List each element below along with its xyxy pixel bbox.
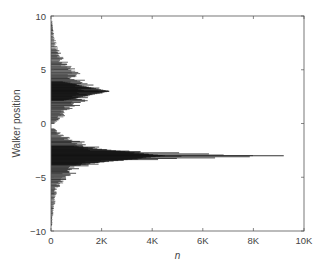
y-tick-label: 5 [41, 64, 46, 75]
x-axis-label: n [175, 250, 181, 261]
x-tick-label: 10K [296, 235, 314, 246]
y-tick-label: −5 [35, 172, 46, 183]
plot-frame [51, 16, 304, 231]
x-tick-label: 0 [48, 235, 53, 246]
x-tick-label: 8K [248, 235, 260, 246]
y-axis-label: Walker position [11, 90, 22, 158]
y-axis-ticks: −10−50510 [30, 11, 304, 237]
x-axis-ticks: 02K4K6K8K10K [48, 16, 313, 246]
walker-position-chart: 02K4K6K8K10K −10−50510 n Walker position [0, 0, 325, 271]
x-tick-label: 2K [96, 235, 108, 246]
y-tick-label: 0 [41, 118, 46, 129]
x-tick-label: 6K [197, 235, 209, 246]
x-tick-label: 4K [146, 235, 158, 246]
y-tick-label: 10 [35, 11, 46, 22]
y-tick-label: −10 [30, 226, 46, 237]
walker-traces [51, 21, 284, 225]
